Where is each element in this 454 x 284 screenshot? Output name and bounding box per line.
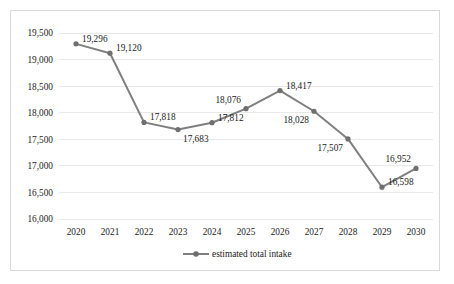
y-axis-tick-label: 16,000 [27,214,53,224]
chart-container: 16,00016,50017,00017,50018,00018,50019,0… [10,10,440,271]
y-axis-tick-label: 17,000 [27,161,53,171]
x-axis-tick-label: 2026 [271,227,290,237]
x-axis-tick-label: 2023 [169,227,188,237]
y-axis-tick-label: 19,500 [27,28,53,38]
data-point-label: 16,952 [385,154,411,164]
y-axis-tick-label: 16,500 [27,188,53,198]
x-axis-tick-label: 2024 [203,227,222,237]
data-point-label: 17,507 [317,143,343,153]
data-point-label: 17,812 [218,113,244,123]
data-point-label: 18,417 [286,81,312,91]
x-axis-tick-label: 2027 [305,227,324,237]
series-markers-group [73,41,418,190]
legend-label: estimated total intake [212,249,292,259]
x-axis-tick-label: 2022 [135,227,154,237]
y-axis-tick-label: 19,000 [27,55,53,65]
data-point-marker [277,88,282,93]
y-axis-tick-labels: 16,00016,50017,00017,50018,00018,50019,0… [27,28,53,224]
gridlines-group [59,33,433,219]
x-axis-tick-label: 2020 [67,227,86,237]
data-point-marker [175,127,180,132]
series-group [73,41,418,190]
data-point-marker [141,120,146,125]
x-axis-tick-labels: 2020202120222023202420252026202720282029… [67,227,426,237]
y-axis-tick-label: 18,500 [27,82,53,92]
x-axis-tick-label: 2021 [101,227,120,237]
data-point-label: 17,683 [183,134,209,144]
data-point-label: 16,598 [388,177,414,187]
y-axis-tick-label: 17,500 [27,135,53,145]
data-point-marker [243,106,248,111]
data-point-label: 18,076 [215,95,241,105]
chart-legend: estimated total intake [183,249,292,259]
data-point-marker [107,51,112,56]
data-point-label: 19,120 [116,43,142,53]
x-axis-tick-label: 2029 [373,227,392,237]
data-point-marker [209,120,214,125]
data-point-label: 19,296 [82,34,108,44]
data-point-marker [379,185,384,190]
data-point-labels-group: 19,29619,12017,81817,68317,81218,07618,4… [82,34,414,187]
data-point-marker [311,109,316,114]
data-point-marker [73,41,78,46]
data-point-label: 18,028 [283,115,309,125]
data-point-marker [345,136,350,141]
x-axis-tick-label: 2028 [339,227,358,237]
y-axis-tick-label: 18,000 [27,108,53,118]
x-axis-tick-label: 2030 [407,227,426,237]
data-point-marker [413,166,418,171]
x-axis-tick-label: 2025 [237,227,256,237]
legend-marker-icon [193,251,199,257]
data-point-label: 17,818 [150,112,176,122]
line-chart: 16,00016,50017,00017,50018,00018,50019,0… [11,11,441,272]
